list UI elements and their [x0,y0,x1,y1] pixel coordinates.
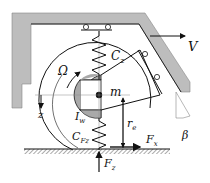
mass-label: m [110,85,121,99]
tire-spring-label: CFz [72,130,89,145]
fz-label: Fz [103,157,116,172]
radius-label: re [127,117,136,132]
z-label: z [37,109,44,120]
wheel-suspension-diagram: V Ω Cz m Iw CFz z re Fx Fz β [0,0,210,183]
ground [24,149,170,154]
spring-cz-label: Cz [111,49,125,65]
velocity-label: V [188,39,199,54]
rotation-label: Ω [57,64,68,78]
top-rollers [81,24,112,30]
fx-label: Fx [145,133,158,148]
beta-angle [176,92,190,118]
beta-label: β [181,129,188,142]
